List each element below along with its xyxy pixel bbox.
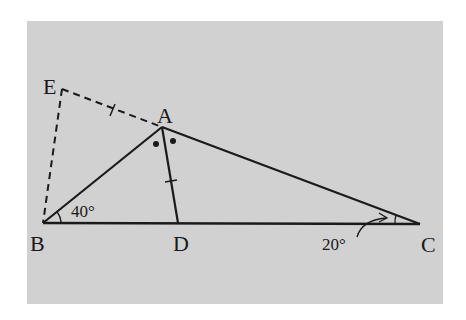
angle-label-C: 20°: [322, 235, 346, 254]
label-C: C: [421, 232, 436, 257]
angle-label-B: 40°: [71, 202, 95, 221]
label-E: E: [43, 74, 56, 99]
label-D: D: [173, 231, 189, 256]
label-B: B: [30, 231, 45, 256]
arrowhead-icon: [379, 213, 387, 222]
angle-arc-B: [57, 212, 61, 223]
tick-mark-AD: [165, 180, 177, 182]
segment-EB: [43, 89, 62, 223]
segment-AC: [162, 127, 420, 224]
segment-BC: [43, 223, 420, 224]
angle-dot-right: [170, 138, 176, 144]
angle-dot-left: [153, 141, 159, 147]
label-A: A: [157, 103, 173, 128]
tick-mark-EA: [110, 104, 115, 116]
segment-AB: [43, 127, 162, 223]
segment-EA: [62, 89, 162, 127]
angle-arc-C: [395, 215, 396, 224]
triangle-diagram: A E B D C 40° 20°: [0, 0, 466, 320]
